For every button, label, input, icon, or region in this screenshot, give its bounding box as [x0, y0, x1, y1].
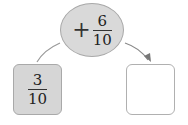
operation-ellipse: + 6 10	[60, 3, 124, 57]
operation-fraction: 6 10	[93, 13, 112, 48]
connector-operation-to-result	[125, 43, 148, 60]
plus-sign: +	[72, 19, 90, 41]
fraction-diagram: + 6 10 3 10	[0, 0, 188, 125]
operation-denominator: 10	[93, 32, 112, 48]
start-value-box: 3 10	[13, 64, 62, 115]
start-numerator: 3	[33, 72, 43, 88]
start-denominator: 10	[28, 91, 47, 107]
arrowhead-icon	[144, 53, 151, 62]
operation-numerator: 6	[97, 13, 107, 29]
result-answer-box[interactable]	[126, 64, 175, 115]
start-fraction: 3 10	[28, 72, 47, 107]
connector-start-to-operation	[37, 43, 60, 62]
